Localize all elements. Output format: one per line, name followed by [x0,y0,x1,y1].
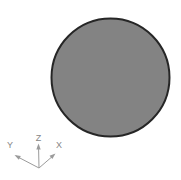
y-axis-label: Y [7,140,13,150]
model-disc[interactable] [52,19,170,137]
viewport-canvas[interactable]: Z Y X [0,0,181,180]
orientation-triad: Z Y X [7,133,62,169]
x-axis-label: X [56,140,62,150]
z-axis-arrow-icon [36,144,40,150]
y-axis-arrow-icon [15,155,21,160]
triad-labels: Z Y X [7,133,62,150]
model-viewport[interactable]: Z Y X [0,0,181,180]
z-axis-label: Z [36,133,42,143]
triad-arrowheads [15,144,56,160]
triad-axis-lines [16,145,54,168]
